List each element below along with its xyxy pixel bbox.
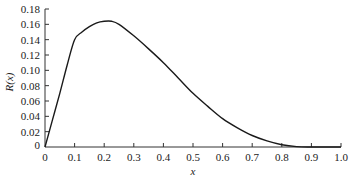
axes (45, 9, 341, 147)
y-axis-label: R(x) (3, 72, 16, 92)
x-tick-label: 0.5 (186, 151, 200, 163)
y-tick-label: 0.16 (21, 18, 41, 30)
y-tick-label: 0.08 (21, 80, 41, 92)
data-line-rx (45, 21, 341, 147)
x-tick-label: 0 (42, 151, 48, 163)
x-tick-label: 0.7 (245, 151, 259, 163)
y-tick-label: 0.02 (21, 126, 40, 138)
y-tick-label: 0.18 (21, 3, 41, 15)
y-tick-label: 0.12 (21, 49, 40, 61)
line-chart: 00.10.20.30.40.50.60.70.80.91.000.020.04… (0, 0, 352, 180)
y-tick-label: 0 (35, 139, 41, 151)
x-tick-label: 0.3 (127, 151, 141, 163)
x-tick-label: 0.9 (305, 151, 319, 163)
ticks: 00.10.20.30.40.50.60.70.80.91.000.020.04… (21, 3, 349, 163)
x-tick-label: 0.1 (68, 151, 82, 163)
y-tick-label: 0.14 (21, 34, 41, 46)
x-axis-label: x (190, 165, 196, 177)
y-tick-label: 0.10 (21, 64, 41, 76)
x-tick-label: 0.8 (275, 151, 289, 163)
y-tick-label: 0.04 (21, 110, 41, 122)
x-tick-label: 0.6 (216, 151, 230, 163)
x-tick-label: 1.0 (334, 151, 348, 163)
y-tick-label: 0.06 (21, 95, 41, 107)
x-tick-label: 0.2 (97, 151, 111, 163)
x-tick-label: 0.4 (157, 151, 171, 163)
